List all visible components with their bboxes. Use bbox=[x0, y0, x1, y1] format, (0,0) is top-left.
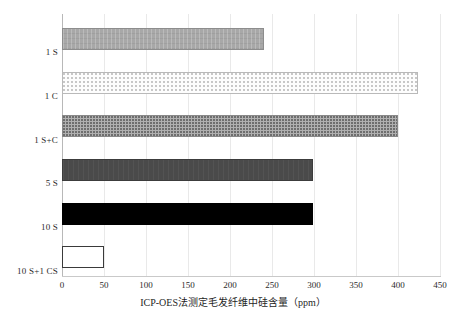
x-tick-150: 150 bbox=[181, 279, 195, 291]
gridline-200 bbox=[230, 14, 231, 276]
plot-area bbox=[62, 14, 440, 276]
y-axis-label-1c: 1 C bbox=[0, 91, 58, 102]
y-axis-label-10s: 10 S bbox=[0, 222, 58, 233]
gridline-350 bbox=[356, 14, 357, 276]
bar-5s bbox=[62, 159, 313, 181]
bar-1c bbox=[62, 72, 418, 94]
y-axis-label-10s1cs: 10 S+1 CS bbox=[0, 266, 58, 277]
x-tick-400: 400 bbox=[391, 279, 405, 291]
gridline-400 bbox=[398, 14, 399, 276]
x-tick-450: 450 bbox=[433, 279, 447, 291]
gridline-150 bbox=[188, 14, 189, 276]
x-tick-300: 300 bbox=[307, 279, 321, 291]
x-axis-line bbox=[62, 276, 441, 277]
gridline-450 bbox=[440, 14, 441, 276]
x-axis-title: ICP-OES法测定毛发纤维中硅含量（ppm） bbox=[0, 296, 466, 310]
x-tick-100: 100 bbox=[139, 279, 153, 291]
bar-1sc bbox=[62, 115, 398, 137]
x-tick-200: 200 bbox=[223, 279, 237, 291]
bar-1s bbox=[62, 28, 264, 50]
x-tick-0: 0 bbox=[60, 279, 65, 291]
y-axis-line bbox=[62, 14, 63, 276]
x-tick-250: 250 bbox=[265, 279, 279, 291]
x-tick-350: 350 bbox=[349, 279, 363, 291]
x-axis-tick-labels: 0 50 100 150 200 250 300 350 400 450 bbox=[0, 279, 466, 293]
gridline-50 bbox=[104, 14, 105, 276]
gridline-100 bbox=[146, 14, 147, 276]
gridline-300 bbox=[314, 14, 315, 276]
y-axis-label-1s: 1 S bbox=[0, 47, 58, 58]
y-axis-category-labels: 1 S 1 C 1 S+C 5 S 10 S 10 S+1 CS bbox=[0, 14, 58, 276]
y-axis-label-5s: 5 S bbox=[0, 178, 58, 189]
bar-10s1cs bbox=[62, 246, 104, 268]
bar-chart: 1 S 1 C 1 S+C 5 S 10 S 10 S+1 CS 0 50 10… bbox=[0, 0, 466, 319]
y-axis-label-1sc: 1 S+C bbox=[0, 135, 58, 146]
x-tick-50: 50 bbox=[100, 279, 109, 291]
bar-10s bbox=[62, 203, 313, 225]
gridline-250 bbox=[272, 14, 273, 276]
